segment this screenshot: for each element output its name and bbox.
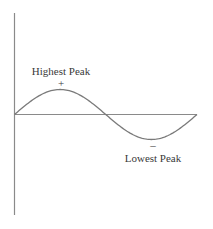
highest-peak-label: Highest Peak xyxy=(32,65,91,77)
positive-sign-label: + xyxy=(58,77,64,89)
negative-sign-label: – xyxy=(149,139,156,151)
lowest-peak-label: Lowest Peak xyxy=(125,152,182,164)
sine-wave-diagram: Highest Peak + – Lowest Peak xyxy=(0,0,213,229)
